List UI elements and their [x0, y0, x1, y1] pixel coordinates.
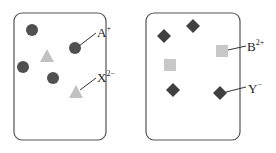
left-panel: A+ X2−: [14, 13, 115, 140]
label-x-2minus: X2−: [97, 69, 115, 85]
cation-a-circle: [47, 72, 59, 84]
cation-a-circle: [26, 24, 38, 36]
right-panel: B2+ Y−: [146, 13, 265, 140]
label-a-plus: A+: [97, 24, 111, 40]
cation-b-square: [216, 45, 228, 57]
label-b-2plus: B2+: [247, 38, 265, 54]
ionic-particles-diagram: A+ X2− B2+ Y−: [0, 0, 276, 153]
label-y-minus: Y−: [248, 80, 262, 96]
cation-a-circle: [69, 42, 81, 54]
cation-b-square: [164, 59, 176, 71]
cation-a-circle: [17, 61, 29, 73]
